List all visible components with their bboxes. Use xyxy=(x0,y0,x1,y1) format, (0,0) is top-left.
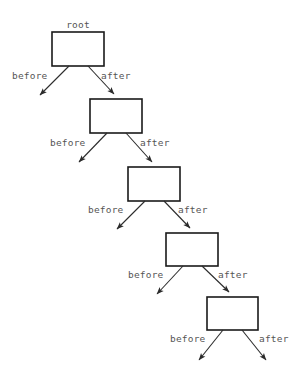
tree-diagram: root before after before after before af… xyxy=(0,0,300,378)
root-label: root xyxy=(66,19,90,30)
node-box-4[interactable] xyxy=(166,233,218,266)
node-box-3[interactable] xyxy=(128,167,180,201)
edge-label-after-4: after xyxy=(218,269,248,280)
edge-label-after-3: after xyxy=(178,204,208,215)
edge-label-before-4: before xyxy=(128,269,164,280)
node-box-5[interactable] xyxy=(207,297,258,330)
diagram-canvas: root before after before after before af… xyxy=(0,0,300,378)
edge-label-after-2: after xyxy=(140,137,170,148)
edge-label-before-5: before xyxy=(170,333,206,344)
edge-label-before-3: before xyxy=(88,204,124,215)
edge-label-after-5: after xyxy=(259,333,289,344)
edge-label-before-1: before xyxy=(12,70,48,81)
edge-label-after-1: after xyxy=(101,70,131,81)
node-box-1[interactable] xyxy=(52,32,104,66)
edge-label-before-2: before xyxy=(50,137,86,148)
node-box-2[interactable] xyxy=(90,99,142,133)
